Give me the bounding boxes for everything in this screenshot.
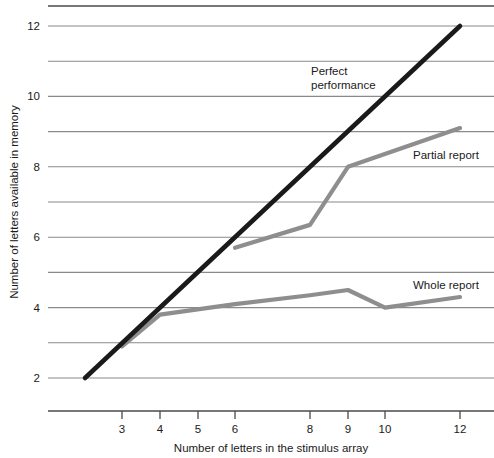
annotation-perfect-performance-line1: Perfect [311, 65, 348, 77]
series-line-partial-report [235, 128, 460, 248]
x-tick-label-12: 12 [454, 423, 467, 435]
x-tick-label-10: 10 [379, 423, 392, 435]
x-tick-label-8: 8 [307, 423, 313, 435]
x-tick-label-6: 6 [232, 423, 238, 435]
x-axis-ticks [122, 411, 460, 419]
y-axis-title: Number of letters available in memory [8, 105, 20, 299]
annotation-partial-report: Partial report [413, 149, 480, 161]
x-axis-tick-labels: 3 4 5 6 8 9 10 12 [119, 423, 467, 435]
x-tick-label-4: 4 [157, 423, 164, 435]
x-tick-label-3: 3 [119, 423, 125, 435]
annotation-perfect-performance-line2: performance [311, 79, 376, 91]
annotation-whole-report: Whole report [413, 279, 480, 291]
y-tick-6: 6 [34, 231, 40, 243]
y-tick-4: 4 [34, 302, 41, 314]
y-tick-8: 8 [34, 161, 40, 173]
memory-span-line-chart: 12 10 8 6 4 2 Number of letters availabl… [0, 0, 494, 458]
y-axis-tick-labels: 12 10 8 6 4 2 [27, 20, 40, 384]
series-annotations: Perfect performance Partial report Whole… [311, 65, 480, 291]
x-tick-label-9: 9 [345, 423, 351, 435]
x-tick-label-5: 5 [195, 423, 201, 435]
y-tick-2: 2 [34, 372, 40, 384]
y-tick-12: 12 [27, 20, 40, 32]
x-axis-title: Number of letters in the stimulus array [174, 442, 369, 454]
y-tick-10: 10 [27, 90, 40, 102]
chart-container: 12 10 8 6 4 2 Number of letters availabl… [0, 0, 494, 458]
